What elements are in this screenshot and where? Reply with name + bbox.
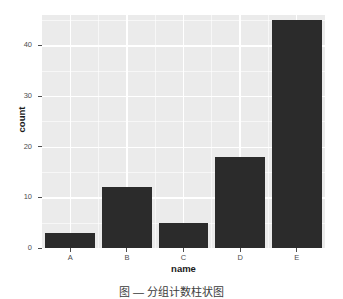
y-tick-mark xyxy=(38,197,42,198)
x-tick-mark xyxy=(240,248,241,252)
gridline-minor-x xyxy=(268,15,269,248)
y-tick-label: 40 xyxy=(24,41,32,49)
y-tick-mark xyxy=(38,248,42,249)
bar-b[interactable] xyxy=(102,187,152,248)
bar-chart: 010203040ABCDE count name xyxy=(0,0,343,272)
y-tick-mark xyxy=(38,96,42,97)
gridline-minor-x xyxy=(98,15,99,248)
x-tick-label-a: A xyxy=(50,253,90,262)
plot-panel xyxy=(42,15,325,248)
x-axis-title: name xyxy=(42,263,325,274)
y-axis-title: count xyxy=(16,90,27,150)
x-tick-label-e: E xyxy=(277,253,317,262)
bar-d[interactable] xyxy=(215,157,265,248)
y-tick-mark xyxy=(38,45,42,46)
x-tick-mark xyxy=(126,248,127,252)
x-tick-label-b: B xyxy=(107,253,147,262)
y-tick-label: 10 xyxy=(24,193,32,201)
x-tick-mark xyxy=(183,248,184,252)
gridline-major-x xyxy=(183,15,184,248)
figure-caption: 图 — 分组计数柱状图 xyxy=(0,283,343,299)
y-tick-label: 0 xyxy=(28,244,32,252)
gridline-major-x xyxy=(70,15,71,248)
bar-c[interactable] xyxy=(159,223,209,248)
gridline-minor-x xyxy=(211,15,212,248)
gridline-minor-x xyxy=(155,15,156,248)
x-tick-label-d: D xyxy=(220,253,260,262)
x-tick-mark xyxy=(70,248,71,252)
y-tick-mark xyxy=(38,146,42,147)
x-tick-mark xyxy=(296,248,297,252)
x-tick-label-c: C xyxy=(164,253,204,262)
bar-a[interactable] xyxy=(45,233,95,248)
bar-e[interactable] xyxy=(272,20,322,248)
